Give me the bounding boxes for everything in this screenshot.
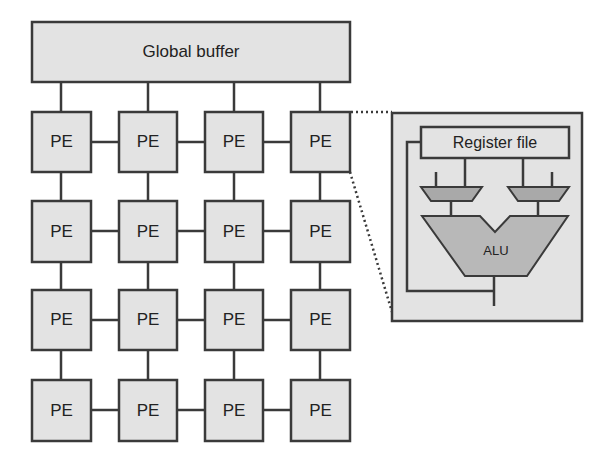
mux-left bbox=[421, 187, 482, 201]
pe-label: PE bbox=[119, 112, 177, 172]
pe-label: PE bbox=[205, 290, 263, 350]
pe-label: PE bbox=[291, 380, 350, 441]
pe-label: PE bbox=[32, 380, 91, 441]
pe-label: PE bbox=[32, 201, 91, 262]
pe-label: PE bbox=[32, 112, 91, 172]
pe-label: PE bbox=[119, 290, 177, 350]
pe-label: PE bbox=[32, 290, 91, 350]
pe-label: PE bbox=[291, 201, 350, 262]
mux-right bbox=[508, 187, 569, 201]
pe-label: PE bbox=[205, 201, 263, 262]
pe-label: PE bbox=[119, 201, 177, 262]
global-buffer-label: Global buffer bbox=[32, 22, 350, 82]
register-file-label: Register file bbox=[421, 127, 569, 158]
alu-label: ALU bbox=[465, 235, 527, 265]
zoom-guide-bottom bbox=[350, 172, 392, 312]
pe-label: PE bbox=[291, 112, 350, 172]
pe-grid-connections bbox=[61, 142, 320, 410]
pe-label: PE bbox=[205, 112, 263, 172]
pe-label: PE bbox=[291, 290, 350, 350]
pe-label: PE bbox=[205, 380, 263, 441]
pe-label: PE bbox=[119, 380, 177, 441]
